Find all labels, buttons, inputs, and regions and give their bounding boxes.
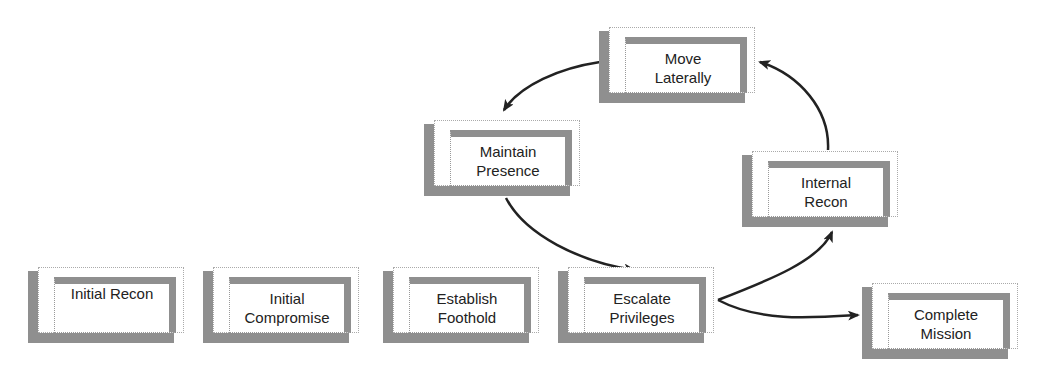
node-label: InternalRecon — [768, 161, 890, 217]
arrow-internal-recon-to-move-laterally — [760, 62, 828, 150]
node-label: Initial Recon — [54, 277, 176, 333]
node-label: MoveLaterally — [625, 37, 747, 93]
arrow-escalate-to-complete-mission — [718, 300, 858, 317]
node-move-laterally: MoveLaterally — [599, 27, 755, 103]
node-establish-foothold: EstablishFoothold — [383, 267, 539, 343]
node-label: EstablishFoothold — [409, 277, 531, 333]
arrow-maintain-presence-to-escalate — [506, 198, 634, 270]
node-internal-recon: InternalRecon — [742, 151, 898, 227]
node-initial-compromise: InitialCompromise — [203, 267, 359, 343]
node-complete-mission: CompleteMission — [862, 283, 1018, 359]
node-initial-recon: Initial Recon — [28, 267, 184, 343]
arrow-move-laterally-to-maintain-presence — [504, 62, 600, 110]
node-label: EscalatePrivileges — [584, 277, 706, 333]
node-label: MaintainPresence — [450, 130, 572, 186]
arrow-escalate-to-internal-recon — [718, 232, 832, 300]
node-label: CompleteMission — [888, 293, 1010, 349]
node-escalate-privileges: EscalatePrivileges — [558, 267, 714, 343]
node-label: InitialCompromise — [229, 277, 351, 333]
node-maintain-presence: MaintainPresence — [424, 120, 580, 196]
